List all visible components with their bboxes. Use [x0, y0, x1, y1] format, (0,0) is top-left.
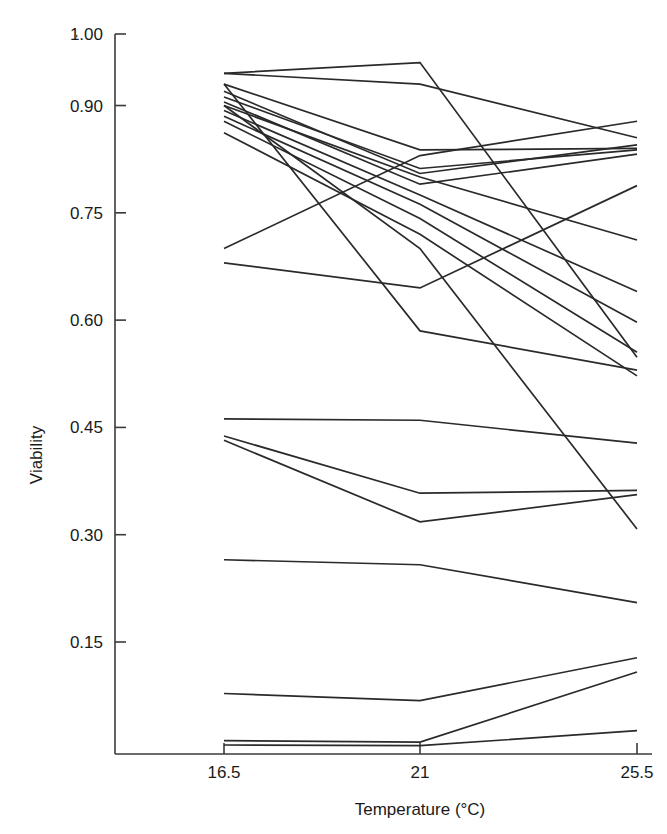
x-tick-label: 25.5	[620, 763, 653, 782]
series-line	[224, 419, 637, 443]
top-left-stray-dot	[74, 34, 77, 37]
y-tick-label: 0.90	[70, 97, 103, 116]
y-axis-title: Viability	[27, 425, 46, 484]
series-line	[224, 111, 637, 292]
series-line	[224, 672, 637, 742]
x-axis-title: Temperature (°C)	[355, 800, 486, 819]
x-tick-label: 21	[411, 763, 430, 782]
y-axis-tickmarks	[115, 34, 126, 642]
y-tick-label: 0.30	[70, 526, 103, 545]
series-line	[224, 560, 637, 603]
series-line	[224, 97, 637, 169]
viability-temperature-line-chart: 1.000.900.750.600.450.300.15 16.52125.5 …	[0, 0, 667, 834]
y-tick-label: 0.75	[70, 204, 103, 223]
x-axis-tick-labels: 16.52125.5	[207, 763, 653, 782]
series-line	[224, 436, 637, 493]
series-line	[224, 658, 637, 701]
y-tick-label: 1.00	[70, 25, 103, 44]
series-line	[224, 84, 637, 370]
series-lines-layer	[224, 63, 637, 746]
y-tick-label: 0.60	[70, 311, 103, 330]
y-tick-label: 0.15	[70, 633, 103, 652]
series-line	[224, 133, 637, 376]
series-line	[224, 440, 637, 522]
x-tick-label: 16.5	[207, 763, 240, 782]
y-tick-label: 0.45	[70, 418, 103, 437]
y-axis-tick-labels: 1.000.900.750.600.450.300.15	[70, 25, 103, 652]
chart-page: 1.000.900.750.600.450.300.15 16.52125.5 …	[0, 0, 667, 834]
series-line	[224, 121, 637, 248]
